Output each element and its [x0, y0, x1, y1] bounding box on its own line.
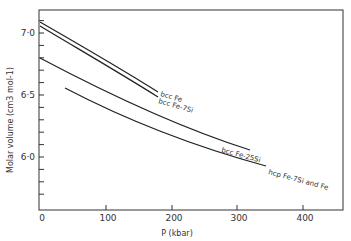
x-axis-title: P (kbar) — [161, 229, 193, 238]
chart: 0 100 200 300 400 P (kbar) 6·0 6·5 7·0 — [0, 0, 351, 241]
curves — [40, 22, 266, 166]
y-tick-label: 6·0 — [21, 152, 36, 162]
curve-bcc-fe-25si — [40, 58, 250, 150]
curve-bcc-fe — [40, 22, 158, 92]
x-tick-label: 300 — [230, 213, 247, 223]
y-axis-title: Molar volume (cm3 mol-1) — [6, 67, 15, 173]
x-tick-label: 0 — [39, 213, 45, 223]
x-tick-label: 400 — [296, 213, 313, 223]
curve-label: hcp Fe-7Si and Fe — [267, 168, 329, 192]
curve-label: bcc Fe-25Si — [220, 146, 261, 164]
y-tick-label: 7·0 — [21, 28, 36, 38]
y-axis: 6·0 6·5 7·0 Molar volume (cm3 mol-1) — [6, 21, 44, 195]
x-tick-label: 200 — [165, 213, 182, 223]
y-tick-label: 6·5 — [21, 90, 35, 100]
curve-bcc-fe-7si — [40, 26, 158, 97]
x-tick-label: 100 — [99, 213, 116, 223]
